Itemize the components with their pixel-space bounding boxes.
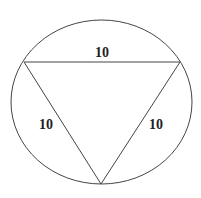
right-side-label: 10 — [149, 117, 163, 132]
top-side-label: 10 — [95, 45, 109, 60]
left-side-label: 10 — [39, 117, 53, 132]
inscribed-triangle-diagram: 10 10 10 — [0, 0, 201, 198]
